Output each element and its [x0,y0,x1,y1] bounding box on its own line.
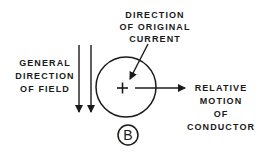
field-label-line-2: DIRECTION [15,71,74,81]
panel-label-text: B [123,127,132,143]
field-label-line-3: OF FIELD [20,84,70,94]
field-label-line-1: GENERAL [19,58,71,68]
motion-label-line-3: OF [214,109,229,119]
motion-label: RELATIVE MOTION OF CONDUCTOR [187,83,255,132]
field-direction-label: GENERAL DIRECTION OF FIELD [15,58,74,94]
current-label-line-2: OF ORIGINAL [119,22,190,32]
motion-label-line-4: CONDUCTOR [187,122,255,132]
current-direction-label: DIRECTION OF ORIGINAL CURRENT [119,10,190,44]
motion-label-line-1: RELATIVE [195,83,248,93]
plus-icon [117,83,128,94]
conductor-field-diagram: DIRECTION OF ORIGINAL CURRENT GENERAL DI… [0,0,265,158]
conductor-circle [96,57,156,117]
current-label-line-3: CURRENT [129,34,181,44]
current-arrow-icon [130,44,148,79]
current-label-line-1: DIRECTION [125,10,184,20]
panel-label-badge: B [118,125,138,145]
motion-label-line-2: MOTION [200,96,243,106]
